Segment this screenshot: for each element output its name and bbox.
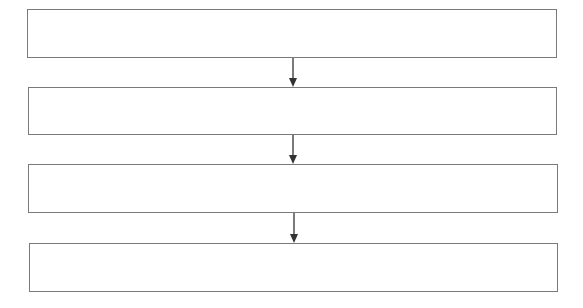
arrow-down-icon — [287, 135, 299, 165]
flowchart-step-1 — [27, 9, 557, 58]
flowchart-step-2 — [28, 87, 557, 135]
flowchart-step-4 — [29, 243, 558, 292]
arrow-down-icon — [287, 58, 299, 88]
arrow-down-icon — [288, 213, 300, 244]
flowchart-step-3 — [28, 164, 558, 213]
